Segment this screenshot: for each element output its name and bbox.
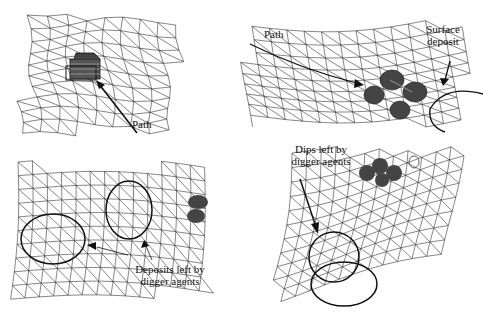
label-path-top-left: Path bbox=[132, 118, 152, 130]
arrow-icon bbox=[300, 179, 319, 234]
label-dips-line-2: digger agents bbox=[276, 155, 366, 167]
label-surface-deposit: Surface deposit bbox=[418, 23, 468, 47]
label-deposits: Deposits left by digger agents bbox=[120, 263, 220, 287]
wireframe-terrain-top-left bbox=[14, 12, 184, 137]
arrow-icon bbox=[87, 240, 152, 260]
label-dips-line-1: Dips left by bbox=[276, 143, 366, 155]
panel-top-right: Path Surface deposit bbox=[240, 14, 483, 129]
deposit-ellipse-right bbox=[106, 181, 152, 239]
panel-bottom-right: Dips left by digger agents bbox=[262, 143, 483, 303]
deposit-ellipse-left bbox=[21, 214, 85, 264]
label-surface-line-2: deposit bbox=[418, 35, 468, 47]
label-path-top-right: Path bbox=[264, 28, 284, 40]
agent-cluster-icon bbox=[66, 53, 100, 80]
agent-ellipsoids-icon bbox=[359, 156, 419, 187]
panel-bottom-left: Deposits left by digger agents bbox=[10, 160, 215, 300]
label-surface-line-1: Surface bbox=[418, 23, 468, 35]
label-dips: Dips left by digger agents bbox=[276, 143, 366, 167]
wireframe-terrain-bottom-right bbox=[262, 143, 483, 303]
label-deposits-line-1: Deposits left by bbox=[120, 263, 220, 275]
dip-circle-upper bbox=[309, 232, 359, 282]
agent-ellipsoids-icon bbox=[364, 70, 427, 119]
agent-ellipsoids-icon bbox=[187, 195, 208, 223]
dip-circle-lower bbox=[311, 262, 377, 306]
panel-top-left: Path bbox=[14, 12, 184, 137]
label-deposits-line-2: digger agents bbox=[120, 275, 220, 287]
